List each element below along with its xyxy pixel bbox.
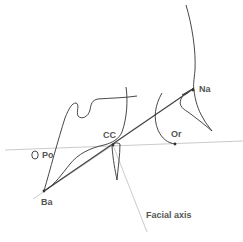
or-label: Or [171, 130, 182, 139]
facial-axis-label: Facial axis [146, 211, 192, 220]
frankfort-horizontal-line [5, 141, 243, 150]
ba-point [43, 190, 46, 193]
facial-axis-line [113, 145, 147, 232]
na-label: Na [199, 85, 211, 94]
pterygomaxillary-fissure [112, 143, 120, 180]
frontal-profile-curve [186, 5, 212, 131]
ba-na-line [44, 89, 193, 191]
ba-label: Ba [41, 198, 53, 207]
po-label: Po [42, 151, 54, 160]
cc-label: CC [103, 131, 116, 140]
na-point [192, 89, 195, 92]
sella-tracing [44, 96, 137, 191]
tracing-canvas [0, 0, 243, 242]
cephalometric-diagram: Na Or CC Po Ba Facial axis [0, 0, 243, 242]
or-point [174, 143, 177, 146]
porion-circle [32, 151, 38, 159]
cc-point [112, 144, 115, 147]
